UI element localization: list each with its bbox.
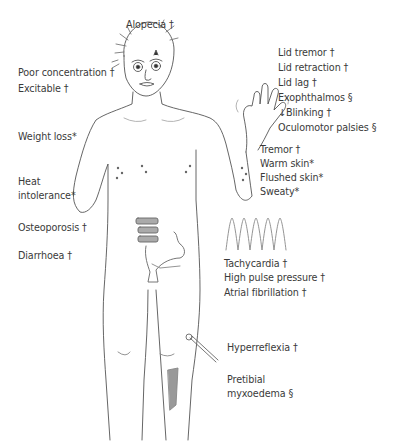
label-lid-retraction: Lid retraction † (278, 61, 348, 74)
label-osteoporosis: Osteoporosis † (18, 221, 87, 234)
ecg-waveform-icon (226, 218, 286, 250)
label-hyperreflexia: Hyperreflexia † (227, 341, 298, 354)
label-lid-lag: Lid lag † (278, 76, 317, 89)
label-oculomotor: Oculomotor palsies § (278, 121, 376, 134)
label-diarrhoea: Diarrhoea † (18, 249, 72, 262)
label-tachycardia: Tachycardia † (224, 257, 287, 270)
label-alopecia: Alopecia † (126, 18, 174, 31)
label-atrial-fibrillation: Atrial fibrillation † (224, 286, 306, 299)
label-poor-concentration: Poor concentration † (18, 66, 114, 79)
label-sweaty: Sweaty* (260, 185, 299, 198)
spine-icon (136, 218, 158, 242)
label-blinking: ↓Blinking † (278, 106, 331, 119)
label-pulse-pressure: High pulse pressure † (224, 271, 325, 284)
label-pretibial-2: myxoedema § (227, 387, 293, 400)
label-weight-loss: Weight loss* (18, 130, 77, 143)
label-heat-intolerance-2: intolerance* (18, 189, 76, 202)
label-heat-intolerance-1: Heat (18, 175, 40, 188)
label-exophthalmos: Exophthalmos § (278, 91, 353, 104)
pretibial-shading (168, 368, 178, 410)
label-warm-skin: Warm skin* (260, 157, 314, 170)
label-tremor: Tremor † (260, 143, 300, 156)
reflex-hammer-icon (186, 334, 218, 362)
label-excitable: Excitable † (18, 82, 69, 95)
label-pretibial-1: Pretibial (227, 373, 265, 386)
label-lid-tremor: Lid tremor † (278, 46, 334, 59)
sweat-drops-icon (116, 165, 247, 181)
label-flushed-skin: Flushed skin* (260, 171, 323, 184)
head-icon (112, 20, 178, 96)
